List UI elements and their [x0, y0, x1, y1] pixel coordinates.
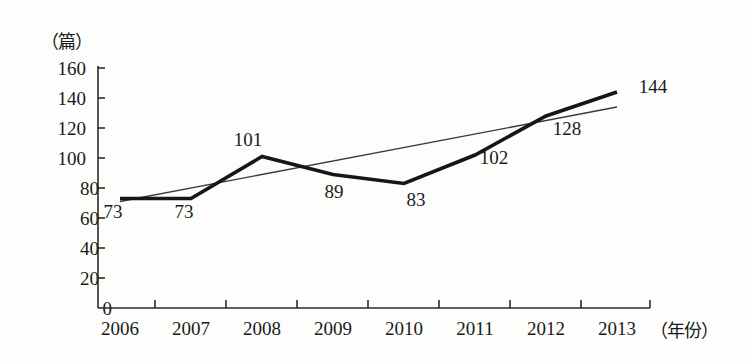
point-label-2010: 83 [394, 189, 438, 211]
chart-plot-area [0, 0, 750, 363]
point-label-2006: 73 [91, 201, 135, 223]
line-chart: （篇） （年份） 160 140 120 100 80 60 40 20 0 2… [0, 0, 750, 363]
point-label-2007: 73 [162, 201, 206, 223]
trend-line-series [120, 107, 617, 202]
data-line-series [120, 92, 617, 199]
point-label-2009: 89 [312, 181, 356, 203]
y-axis-ticks [98, 68, 105, 278]
x-axis-ticks [155, 300, 650, 308]
point-label-2013: 144 [631, 76, 675, 98]
point-label-2012: 128 [545, 118, 589, 140]
point-label-2011: 102 [472, 147, 516, 169]
point-label-2008: 101 [226, 129, 270, 151]
